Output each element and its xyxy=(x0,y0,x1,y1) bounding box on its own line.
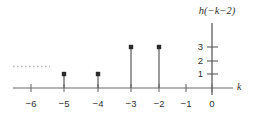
stem-series xyxy=(62,45,161,88)
stem-marker-dot xyxy=(96,72,100,76)
stem-item xyxy=(157,45,161,88)
x-tick-label: −2 xyxy=(154,98,165,109)
x-tick-labels: −6 −5 −4 −3 −2 −1 0 xyxy=(26,98,215,109)
stem-marker-dot xyxy=(129,45,133,49)
stem-item xyxy=(129,45,133,88)
x-tick-label: −6 xyxy=(26,98,37,109)
stem-marker-dot xyxy=(62,72,66,76)
stem-item xyxy=(62,72,66,88)
stem-item xyxy=(96,72,100,88)
x-tick-label: −1 xyxy=(181,98,192,109)
x-axis-label: k xyxy=(237,81,242,92)
y-tick-labels: 1 2 3 xyxy=(198,41,203,79)
stem-marker-dot xyxy=(157,45,161,49)
y-tick-label: 1 xyxy=(198,68,203,79)
y-tick-label: 2 xyxy=(198,55,203,66)
x-tick-label: −4 xyxy=(93,98,104,109)
x-tick-label: −3 xyxy=(126,98,137,109)
y-tick-label: 3 xyxy=(198,41,203,52)
signal-plot-figure: h(−k−2) k −6 −5 −4 −3 −2 −1 0 xyxy=(0,0,259,118)
plot-title: h(−k−2) xyxy=(199,5,236,17)
x-tick-label: −5 xyxy=(59,98,70,109)
stem-plot-canvas: h(−k−2) k −6 −5 −4 −3 −2 −1 0 xyxy=(0,0,259,118)
x-tick-label: 0 xyxy=(209,98,214,109)
